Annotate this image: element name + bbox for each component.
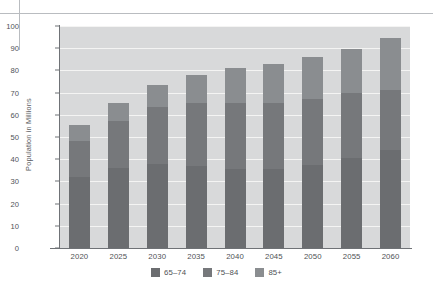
bar-segment[interactable] bbox=[69, 177, 90, 248]
y-axis-title: Population in Millions bbox=[24, 60, 33, 210]
bar-segment[interactable] bbox=[380, 150, 401, 248]
bar-segment[interactable] bbox=[380, 38, 401, 90]
x-axis-line bbox=[50, 248, 412, 249]
bar-segment[interactable] bbox=[341, 49, 362, 92]
y-tick-mark bbox=[55, 248, 59, 249]
bar-stack[interactable] bbox=[108, 26, 129, 248]
bar-segment[interactable] bbox=[186, 103, 207, 166]
y-tick-mark bbox=[55, 92, 59, 93]
legend-item[interactable]: 85+ bbox=[255, 268, 282, 277]
bar-segment[interactable] bbox=[108, 121, 129, 168]
bar-segment[interactable] bbox=[108, 168, 129, 248]
bar-segment[interactable] bbox=[69, 125, 90, 142]
x-tick-label: 2060 bbox=[368, 252, 414, 261]
legend-item[interactable]: 75–84 bbox=[203, 268, 238, 277]
y-tick-mark bbox=[55, 225, 59, 226]
bar-segment[interactable] bbox=[147, 164, 168, 248]
y-tick-mark bbox=[55, 26, 59, 27]
bar-stack[interactable] bbox=[380, 26, 401, 248]
y-tick-label: 50 bbox=[0, 133, 19, 142]
y-tick-label: 60 bbox=[0, 110, 19, 119]
y-tick-label: 10 bbox=[0, 221, 19, 230]
plot-area bbox=[60, 26, 410, 248]
y-tick-mark bbox=[55, 48, 59, 49]
legend-item[interactable]: 65–74 bbox=[151, 268, 186, 277]
bar-segment[interactable] bbox=[225, 68, 246, 102]
bar-segment[interactable] bbox=[186, 75, 207, 103]
y-tick-label: 90 bbox=[0, 44, 19, 53]
y-tick-label: 0 bbox=[0, 244, 19, 253]
legend-label: 85+ bbox=[268, 268, 282, 277]
y-tick-mark bbox=[55, 181, 59, 182]
y-tick-mark bbox=[55, 159, 59, 160]
bar-segment[interactable] bbox=[263, 64, 284, 103]
bar-segment[interactable] bbox=[380, 90, 401, 150]
y-tick-label: 30 bbox=[0, 177, 19, 186]
y-tick-label: 20 bbox=[0, 199, 19, 208]
legend-swatch bbox=[151, 268, 160, 277]
bar-stack[interactable] bbox=[186, 26, 207, 248]
legend-label: 75–84 bbox=[216, 268, 238, 277]
bar-segment[interactable] bbox=[147, 107, 168, 164]
bar-stack[interactable] bbox=[341, 26, 362, 248]
legend-label: 65–74 bbox=[164, 268, 186, 277]
legend-swatch bbox=[203, 268, 212, 277]
bar-segment[interactable] bbox=[225, 169, 246, 248]
bar-stack[interactable] bbox=[147, 26, 168, 248]
legend-swatch bbox=[255, 268, 264, 277]
bar-stack[interactable] bbox=[69, 26, 90, 248]
bar-segment[interactable] bbox=[69, 141, 90, 177]
chart-legend: 65–7475–8485+ bbox=[0, 268, 433, 277]
bar-segment[interactable] bbox=[302, 99, 323, 164]
bar-segment[interactable] bbox=[263, 169, 284, 248]
bar-stack[interactable] bbox=[225, 26, 246, 248]
bar-segment[interactable] bbox=[341, 158, 362, 248]
y-tick-label: 40 bbox=[0, 155, 19, 164]
y-tick-label: 100 bbox=[0, 22, 19, 31]
bar-segment[interactable] bbox=[341, 93, 362, 158]
y-tick-label: 70 bbox=[0, 88, 19, 97]
bar-segment[interactable] bbox=[263, 103, 284, 170]
bar-segment[interactable] bbox=[186, 166, 207, 248]
bar-segment[interactable] bbox=[108, 103, 129, 122]
y-axis-line bbox=[59, 25, 60, 249]
bar-segment[interactable] bbox=[147, 85, 168, 107]
bar-segment[interactable] bbox=[225, 103, 246, 170]
y-tick-label: 80 bbox=[0, 66, 19, 75]
stacked-bar-chart: Population in Millions 01020304050607080… bbox=[0, 0, 433, 302]
y-tick-mark bbox=[55, 137, 59, 138]
bar-stack[interactable] bbox=[302, 26, 323, 248]
y-tick-mark bbox=[55, 70, 59, 71]
y-tick-mark bbox=[55, 203, 59, 204]
bar-segment[interactable] bbox=[302, 165, 323, 248]
bar-segment[interactable] bbox=[302, 57, 323, 99]
bar-stack[interactable] bbox=[263, 26, 284, 248]
y-tick-mark bbox=[55, 114, 59, 115]
